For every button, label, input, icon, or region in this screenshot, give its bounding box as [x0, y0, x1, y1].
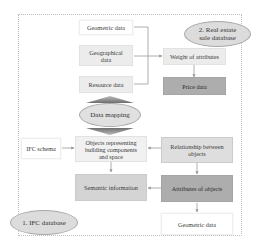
- ifc-database-label: 1. IFC database: [10, 210, 78, 235]
- node-ifc-schema: IFC schema: [21, 138, 61, 159]
- node-relationship-between-objects: Relationship between objects: [161, 137, 233, 163]
- connector-geometric-top: [134, 27, 148, 84]
- data-mapping-label: Data mapping: [79, 103, 141, 127]
- real-estate-label-line1: 2. Real estate: [199, 26, 237, 34]
- node-price-data: Price data: [163, 77, 226, 95]
- real-estate-database-label: 2. Real estate sale database: [184, 21, 251, 47]
- mapping-arrow-up: [86, 96, 134, 103]
- node-geographical-data: Geographical data: [79, 45, 133, 66]
- node-geometric-data-top: Geometric data: [79, 20, 133, 35]
- node-weight-of-attributes: Weight of attributes: [163, 48, 226, 65]
- node-resource-data: Resource data: [79, 76, 133, 93]
- node-attributes-of-objects: Attributes of objects: [161, 175, 233, 202]
- mapping-arrow-down: [86, 128, 134, 135]
- node-semantic-information: Semantic information: [75, 174, 147, 201]
- node-geometric-data-bottom: Geometric data: [161, 213, 233, 235]
- real-estate-label-line2: sale database: [199, 34, 237, 42]
- node-objects-representing: Objects representing building components…: [75, 136, 147, 162]
